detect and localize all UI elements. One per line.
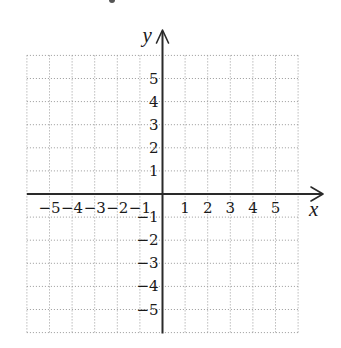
axes	[27, 30, 323, 334]
y-tick-label: −4	[136, 277, 158, 295]
y-tick-label: −2	[136, 231, 158, 249]
y-tick-label: −5	[136, 301, 158, 319]
y-tick-label: 2	[149, 139, 159, 157]
y-tick-label: 4	[149, 93, 159, 111]
y-tick-label: 5	[149, 70, 159, 88]
y-tick-label: 3	[149, 116, 159, 134]
y-tick-label: 1	[149, 162, 159, 180]
x-tick-label: 5	[271, 199, 281, 217]
x-tick-label: −5	[38, 199, 60, 217]
x-tick-label: −3	[84, 199, 106, 217]
y-axis-label: y	[141, 23, 153, 47]
x-tick-label: −4	[61, 199, 83, 217]
x-tick-label: −2	[106, 199, 128, 217]
x-tick-label: 4	[248, 199, 258, 217]
y-tick-label: −1	[136, 208, 158, 226]
x-tick-labels: −5−4−3−2−112345	[38, 199, 280, 217]
x-axis-label: x	[308, 197, 319, 221]
x-tick-label: 3	[226, 199, 236, 217]
coordinate-plane: −5−4−3−2−112345 54321−1−2−3−4−5 x y	[0, 0, 341, 348]
y-tick-label: −3	[136, 254, 158, 272]
x-tick-label: 2	[203, 199, 213, 217]
x-tick-label: 1	[180, 199, 190, 217]
